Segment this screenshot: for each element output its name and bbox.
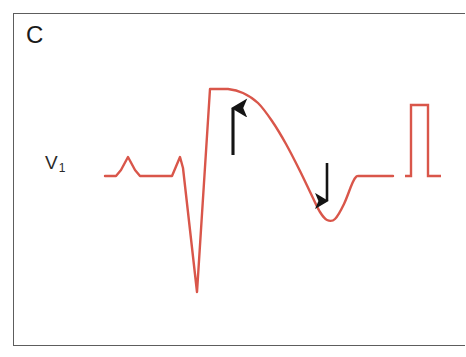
ecg-waveform-canvas (0, 0, 466, 357)
ecg-figure-panel: C V1 (0, 0, 466, 357)
ecg-trace-main (105, 89, 393, 292)
ecg-calibration-pulse (405, 105, 441, 176)
annotation-arrows-group (233, 108, 327, 201)
ecg-trace-group (105, 89, 441, 292)
